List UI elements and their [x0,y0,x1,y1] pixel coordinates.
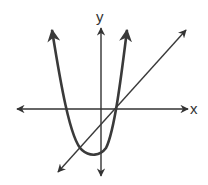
linear-function-line [58,30,186,172]
x-axis-label: x [190,100,198,117]
graph-canvas: y x [0,0,208,185]
y-axis-label: y [96,8,104,25]
parabola-curve [52,30,127,155]
